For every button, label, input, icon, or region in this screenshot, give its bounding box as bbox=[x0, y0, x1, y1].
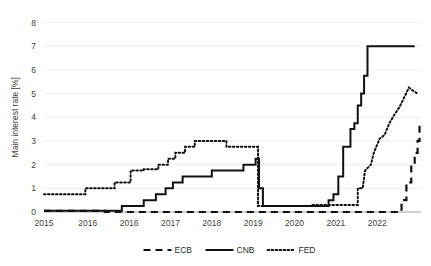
y-axis-tick-labels: 012345678 bbox=[31, 18, 36, 218]
y-tick-label: 8 bbox=[31, 18, 36, 28]
x-tick-label: 2021 bbox=[326, 218, 345, 228]
chart-legend: ECBCNBFED bbox=[144, 245, 316, 255]
legend-item-ecb[interactable]: ECB bbox=[144, 245, 193, 255]
x-tick-label: 2015 bbox=[35, 218, 54, 228]
gridlines bbox=[44, 23, 421, 213]
series-line-cnb bbox=[44, 46, 415, 211]
x-tick-label: 2017 bbox=[161, 218, 180, 228]
series-line-ecb bbox=[44, 123, 421, 212]
x-axis-tick-labels: 201520162016201720182019202020212022 bbox=[35, 218, 387, 228]
y-tick-label: 2 bbox=[31, 160, 36, 170]
y-tick-label: 0 bbox=[31, 207, 36, 217]
x-tick-label: 2016 bbox=[78, 218, 97, 228]
y-tick-label: 4 bbox=[31, 112, 36, 122]
y-tick-label: 5 bbox=[31, 89, 36, 99]
y-tick-label: 3 bbox=[31, 136, 36, 146]
chart-canvas: 012345678 201520162016201720182019202020… bbox=[0, 0, 431, 266]
x-tick-label: 2022 bbox=[368, 218, 387, 228]
x-tick-label: 2018 bbox=[202, 218, 221, 228]
legend-item-fed[interactable]: FED bbox=[268, 245, 316, 255]
x-tick-label: 2020 bbox=[285, 218, 304, 228]
y-tick-label: 6 bbox=[31, 65, 36, 75]
y-tick-label: 7 bbox=[31, 41, 36, 51]
y-axis-title: Main interest rate [%] bbox=[10, 77, 20, 157]
data-series-group bbox=[44, 46, 421, 212]
legend-label: FED bbox=[299, 245, 316, 255]
legend-label: ECB bbox=[175, 245, 193, 255]
x-tick-label: 2016 bbox=[120, 218, 139, 228]
y-tick-label: 1 bbox=[31, 183, 36, 193]
x-tick-label: 2019 bbox=[244, 218, 263, 228]
legend-item-cnb[interactable]: CNB bbox=[206, 245, 255, 255]
legend-label: CNB bbox=[237, 245, 255, 255]
interest-rate-chart: 012345678 201520162016201720182019202020… bbox=[0, 0, 431, 266]
